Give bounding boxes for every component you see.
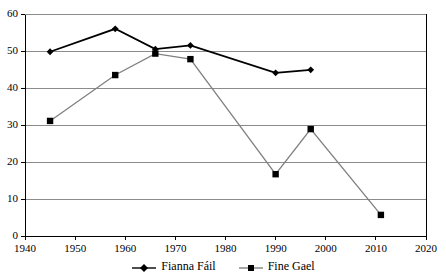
chart-container: 0102030405060 19401950196019701980199020… [0,0,446,280]
legend-marker-diamond-icon [131,260,157,272]
x-tick-label: 1940 [5,242,45,254]
y-tick-label: 40 [0,81,18,93]
y-tick-label: 20 [0,155,18,167]
y-tick-label: 10 [0,192,18,204]
y-tick-label: 30 [0,118,18,130]
y-tick-label: 0 [0,229,18,241]
x-tick-label: 1990 [256,242,296,254]
x-tick-label: 2000 [306,242,346,254]
y-tick-label: 60 [0,7,18,19]
line-chart-plot [0,0,446,280]
x-tick-label: 2020 [406,242,446,254]
x-tick-label: 1970 [155,242,195,254]
x-tick-label: 1950 [55,242,95,254]
legend-marker-square-icon [238,260,264,272]
data-series [47,25,384,218]
y-axis-ticks [21,14,25,236]
y-tick-label: 50 [0,44,18,56]
x-tick-label: 2010 [356,242,396,254]
gridlines [25,14,426,236]
legend-item-fine-gael: Fine Gael [238,259,315,274]
x-tick-label: 1960 [105,242,145,254]
legend-label-fianna-fail: Fianna Fáil [161,259,215,274]
legend-item-fianna-fail: Fianna Fáil [131,259,215,274]
chart-legend: Fianna Fáil Fine Gael [0,255,446,277]
x-tick-label: 1980 [206,242,246,254]
x-axis-ticks [25,236,426,240]
legend-label-fine-gael: Fine Gael [268,259,315,274]
